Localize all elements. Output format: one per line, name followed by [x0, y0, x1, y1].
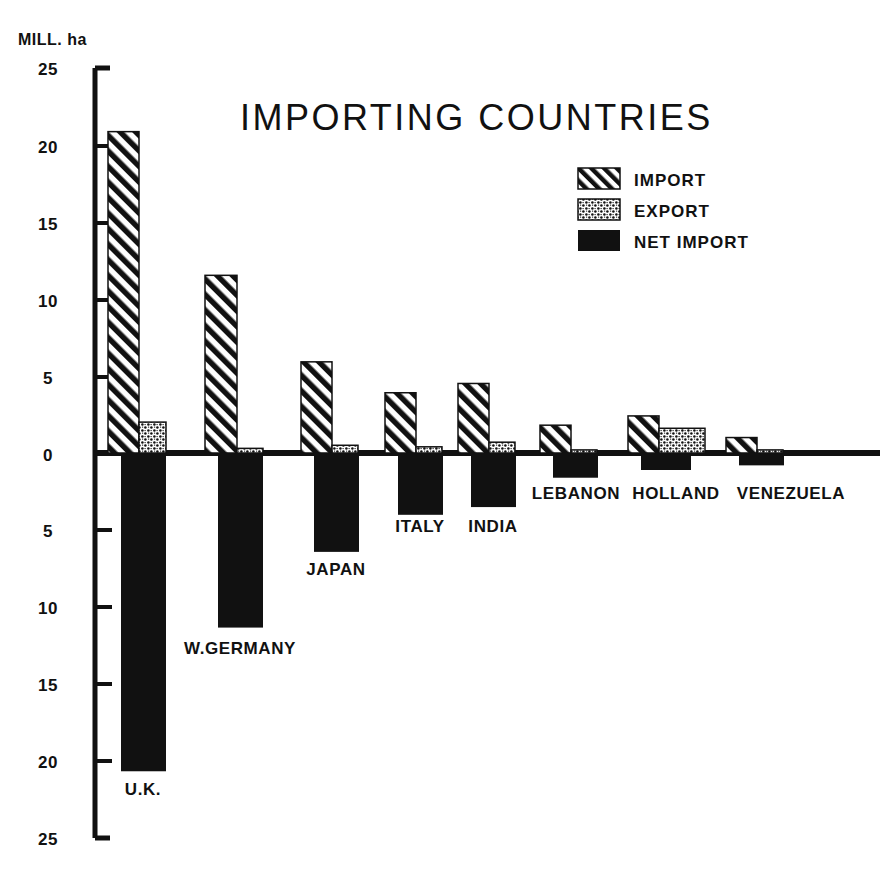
legend-swatch-export	[578, 199, 620, 220]
y-tick-label-10-bottom: 10	[38, 599, 58, 618]
bar-import-holland	[628, 416, 659, 453]
bar-net-import-w-germany	[218, 453, 263, 628]
y-tick-label-15-top: 15	[38, 215, 58, 234]
category-label-lebanon: LEBANON	[532, 484, 620, 503]
bar-export-lebanon	[571, 450, 597, 453]
category-label-venezuela: VENEZUELA	[737, 484, 845, 503]
y-tick-label-20-bottom: 20	[38, 753, 58, 772]
bar-export-u-k	[139, 422, 166, 453]
chart-container: MILL. ha IMPORTING COUNTRIES 25 20 15 10…	[0, 0, 888, 872]
bar-export-japan	[332, 445, 358, 453]
category-label-w-germany: W.GERMANY	[184, 639, 296, 658]
category-label-india: INDIA	[468, 517, 517, 536]
legend-swatch-import	[578, 168, 620, 189]
bar-import-w-germany	[205, 275, 237, 453]
bar-net-import-lebanon	[553, 453, 598, 478]
bar-import-italy	[385, 393, 416, 453]
y-tick-label-25-bottom: 25	[38, 830, 58, 849]
y-tick-label-10-top: 10	[38, 292, 58, 311]
y-tick-label-20-top: 20	[38, 138, 58, 157]
bar-import-u-k	[108, 132, 139, 453]
bar-net-import-japan	[314, 453, 359, 552]
bar-import-venezuela	[726, 438, 757, 453]
legend-label-export: EXPORT	[634, 202, 710, 221]
bar-import-lebanon	[540, 425, 571, 453]
bar-net-import-u-k	[121, 453, 166, 771]
chart-title: IMPORTING COUNTRIES	[240, 97, 713, 138]
y-tick-label-15-bottom: 15	[38, 676, 58, 695]
y-axis-unit-label: MILL. ha	[18, 31, 87, 48]
bar-net-import-italy	[398, 453, 443, 515]
bar-net-import-venezuela	[739, 453, 784, 465]
category-label-u-k: U.K.	[125, 780, 161, 799]
y-tick-label-0: 0	[43, 446, 53, 465]
y-tick-label-5-bottom: 5	[43, 522, 53, 541]
bar-net-import-holland	[641, 453, 691, 470]
bar-export-holland	[659, 428, 705, 453]
category-label-holland: HOLLAND	[632, 484, 719, 503]
y-tick-label-5-top: 5	[43, 369, 53, 388]
bar-export-italy	[416, 447, 442, 453]
category-label-japan: JAPAN	[306, 560, 365, 579]
legend-swatch-net-import	[578, 230, 620, 251]
category-label-italy: ITALY	[395, 517, 444, 536]
importing-countries-bar-chart: MILL. ha IMPORTING COUNTRIES 25 20 15 10…	[0, 0, 888, 872]
bar-export-w-germany	[237, 448, 263, 453]
bar-net-import-india	[471, 453, 516, 507]
legend-label-net-import: NET IMPORT	[634, 233, 749, 252]
legend-label-import: IMPORT	[634, 171, 706, 190]
bar-export-india	[489, 442, 515, 453]
bar-export-venezuela	[757, 450, 783, 453]
bar-import-japan	[301, 362, 332, 453]
y-tick-label-25-top: 25	[38, 60, 58, 79]
bar-import-india	[458, 383, 489, 453]
